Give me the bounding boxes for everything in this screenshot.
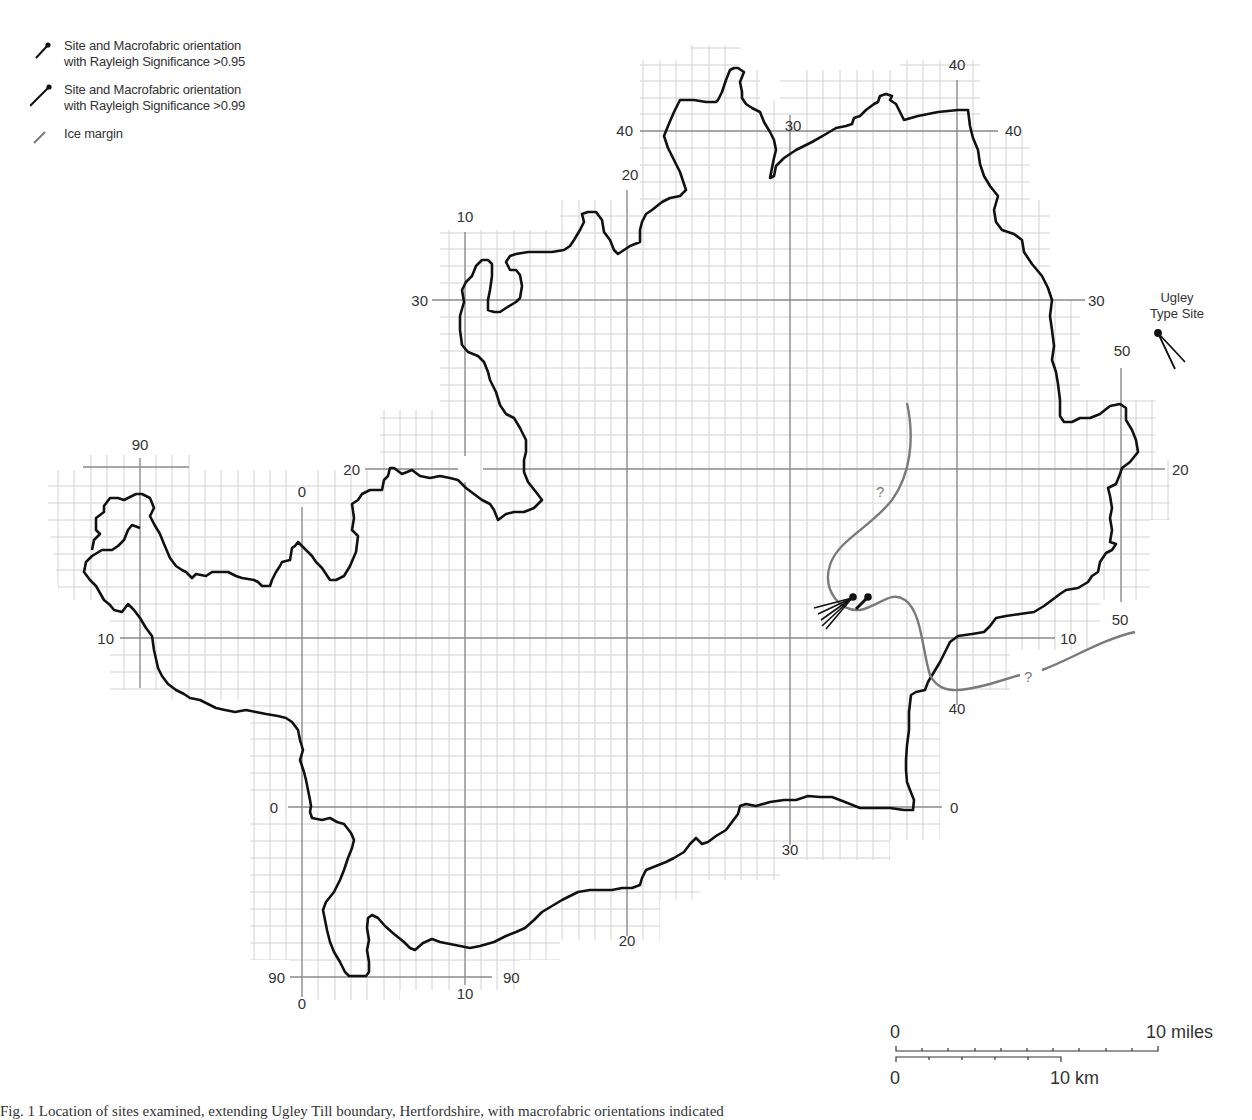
grid-label: 10 [457, 208, 474, 225]
grid-label: 0 [950, 799, 958, 816]
grid-label: 50 [1112, 611, 1129, 628]
grid-label: 20 [622, 166, 639, 183]
grid-label: 0 [298, 483, 306, 500]
scale-bar [896, 1046, 1158, 1062]
grid-label: 30 [785, 117, 802, 134]
figure-caption: Fig. 1 Location of sites examined, exten… [0, 1103, 724, 1120]
scale-km-start: 0 [890, 1068, 900, 1088]
grid-label: 90 [503, 969, 520, 986]
grid-label: 40 [1005, 122, 1022, 139]
grid-label: 30 [411, 292, 428, 309]
grid-label: 30 [1088, 292, 1105, 309]
ice-margin-uncertain-mark: ? [1024, 668, 1032, 685]
grid-label: 10 [97, 630, 114, 647]
ice-margin-uncertain-mark: ? [876, 483, 884, 500]
grid-label: 50 [1114, 342, 1131, 359]
grid-label: 20 [343, 461, 360, 478]
ugley-type-site-label: Ugley Type Site [1142, 290, 1212, 322]
grid-label: 0 [298, 995, 306, 1012]
scale-miles-end: 10 miles [1146, 1022, 1213, 1042]
grid-label: 10 [457, 985, 474, 1002]
grid-label: 20 [619, 932, 636, 949]
scale-miles-start: 0 [890, 1022, 900, 1042]
grid-label: 20 [1172, 461, 1189, 478]
grid-label: 30 [782, 841, 799, 858]
ugley-site-marker [1155, 330, 1185, 369]
major-grid [83, 80, 1165, 997]
grid-label: 10 [1060, 630, 1077, 647]
grid-label: 40 [949, 700, 966, 717]
grid-label: 90 [268, 969, 285, 986]
grid-label: 40 [949, 56, 966, 73]
grid-label: 40 [616, 122, 633, 139]
grid-label: 90 [132, 436, 149, 453]
scale-km-end: 10 km [1050, 1068, 1099, 1088]
ice-margin [828, 403, 1135, 690]
grid-label: 0 [270, 799, 278, 816]
